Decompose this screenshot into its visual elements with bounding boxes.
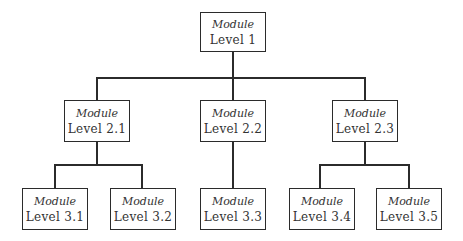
connector: [96, 141, 98, 165]
module-level-3-2-node: Module Level 3.2: [110, 188, 176, 230]
node-title: Module: [212, 106, 254, 121]
connector: [141, 164, 143, 188]
connector: [232, 77, 234, 100]
module-level-2-1-node: Module Level 2.1: [64, 100, 130, 142]
module-level-2-3-node: Module Level 2.3: [332, 100, 398, 142]
node-title: Module: [212, 17, 254, 32]
connector: [408, 164, 410, 188]
node-title: Module: [301, 194, 343, 209]
module-level-2-2-node: Module Level 2.2: [200, 100, 266, 142]
node-title: Module: [34, 194, 76, 209]
node-label: Level 3.3: [204, 209, 262, 225]
node-label: Level 2.2: [204, 121, 262, 137]
node-label: Level 2.3: [336, 121, 394, 137]
module-level-1-node: Module Level 1: [200, 12, 266, 52]
node-title: Module: [388, 194, 430, 209]
connector: [232, 51, 234, 78]
module-level-3-1-node: Module Level 3.1: [22, 188, 88, 230]
module-hierarchy-diagram: Module Level 1 Module Level 2.1 Module L…: [0, 0, 463, 241]
node-label: Level 1: [210, 32, 256, 48]
connector: [96, 77, 98, 100]
node-title: Module: [344, 106, 386, 121]
node-label: Level 3.4: [293, 209, 351, 225]
module-level-3-5-node: Module Level 3.5: [376, 188, 442, 230]
connector: [319, 164, 409, 166]
connector: [364, 141, 366, 165]
node-title: Module: [212, 194, 254, 209]
connector: [232, 141, 234, 188]
connector: [54, 164, 142, 166]
node-label: Level 3.2: [114, 209, 172, 225]
node-title: Module: [76, 106, 118, 121]
connector: [364, 77, 366, 100]
node-label: Level 2.1: [68, 121, 126, 137]
node-label: Level 3.5: [380, 209, 438, 225]
connector: [96, 77, 366, 79]
module-level-3-3-node: Module Level 3.3: [200, 188, 266, 230]
node-title: Module: [122, 194, 164, 209]
connector: [319, 164, 321, 188]
connector: [54, 164, 56, 188]
node-label: Level 3.1: [26, 209, 84, 225]
module-level-3-4-node: Module Level 3.4: [289, 188, 355, 230]
